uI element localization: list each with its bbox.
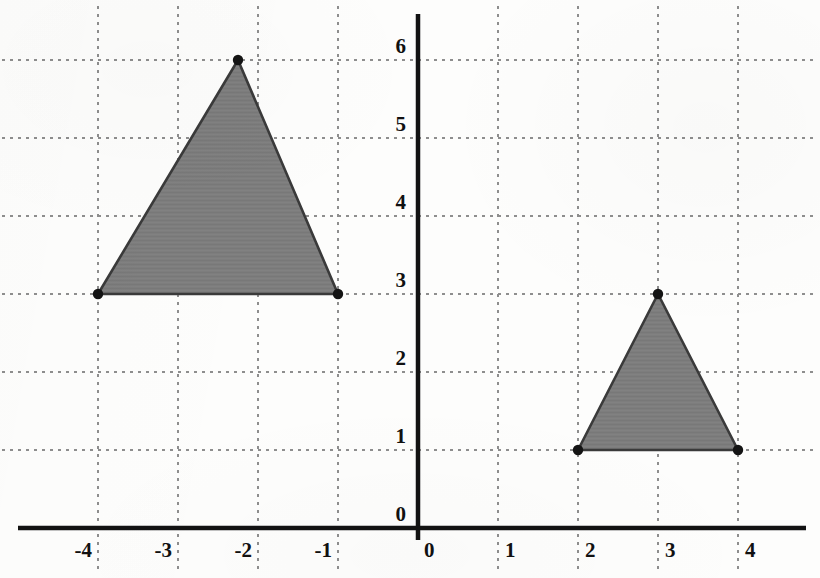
x-tick-label-0: 0: [424, 540, 435, 561]
small-triangle-vertex-2: [653, 289, 663, 299]
x-tick-label--1: -1: [315, 540, 333, 561]
large-triangle-vertex-1: [333, 289, 343, 299]
x-tick-label-4: 4: [745, 540, 756, 561]
small-triangle-vertex-0: [573, 445, 583, 455]
x-tick-label--4: -4: [75, 540, 93, 561]
y-tick-label-3: 3: [396, 270, 407, 291]
x-tick-label-1: 1: [505, 540, 516, 561]
y-tick-label-5: 5: [396, 114, 407, 135]
small-triangle: [573, 289, 743, 455]
large-triangle: [93, 55, 343, 299]
y-tick-label-4: 4: [396, 192, 407, 213]
large-triangle-polygon: [98, 60, 338, 294]
y-tick-label-1: 1: [396, 426, 407, 447]
plot-canvas: [0, 0, 820, 578]
x-tick-label--3: -3: [155, 540, 173, 561]
y-tick-label-2: 2: [396, 348, 407, 369]
small-triangle-vertex-1: [733, 445, 743, 455]
x-tick-label-3: 3: [665, 540, 676, 561]
y-tick-label-6: 6: [396, 36, 407, 57]
large-triangle-vertex-2: [233, 55, 243, 65]
x-tick-label-2: 2: [585, 540, 596, 561]
coordinate-plane-figure: -4-3-2-1012340123456: [0, 0, 820, 578]
large-triangle-vertex-0: [93, 289, 103, 299]
x-tick-label--2: -2: [235, 540, 253, 561]
y-tick-label-0: 0: [396, 504, 407, 525]
